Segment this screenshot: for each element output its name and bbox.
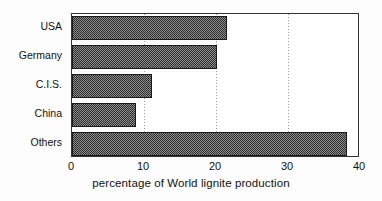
category-label-usa: USA [0,21,62,32]
category-label-cis: C.I.S. [0,79,62,90]
bars-layer [72,14,358,156]
bar-germany [72,45,217,69]
xtick-label-20: 20 [200,160,230,173]
category-axis-labels: USA Germany C.I.S. China Others [0,13,67,157]
bar-usa [72,16,227,40]
xtick-label-40: 40 [344,160,374,173]
category-label-germany: Germany [0,50,62,61]
plot-area [71,13,359,157]
x-axis-tick-labels: 0 10 20 30 40 [0,160,382,174]
lignite-production-bar-chart: USA Germany C.I.S. China Others 0 10 20 … [0,0,382,201]
x-axis-title: percentage of World lignite production [0,177,382,189]
bar-cis [72,74,152,98]
category-label-china: China [0,108,62,119]
xtick-label-0: 0 [56,160,86,173]
bar-others [72,132,347,156]
xtick-label-30: 30 [272,160,302,173]
xtick-label-10: 10 [128,160,158,173]
bar-china [72,103,136,127]
category-label-others: Others [0,137,62,148]
